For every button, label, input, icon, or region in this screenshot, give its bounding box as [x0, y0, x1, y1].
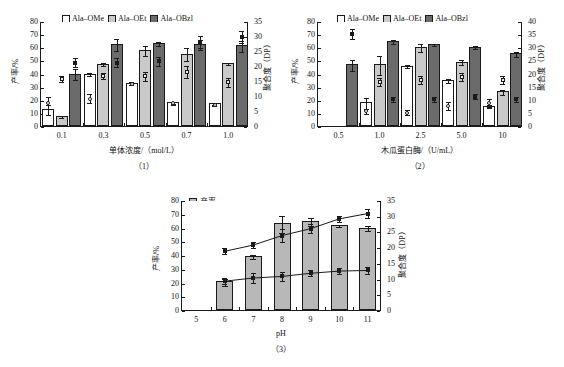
y-tick-label-left: 80: [21, 18, 38, 26]
error-bar-cap: [514, 57, 519, 58]
y-tick-label-left: 0: [298, 123, 315, 131]
y-tick-label-left: 70: [21, 31, 38, 39]
y-tick-label-left: 30: [21, 84, 38, 92]
error-bar-cap: [198, 36, 203, 37]
error-bar-cap: [184, 61, 189, 62]
error-bar-cap: [114, 67, 119, 68]
panel1-plot-area: 01020304050607080051015202530350.10.30.5…: [40, 22, 248, 127]
y-tick-right: [518, 48, 521, 49]
y-tick-label-left: 10: [162, 293, 179, 301]
bar-oet: [456, 62, 468, 126]
error-bar-cap: [364, 98, 369, 99]
y-tick-label-left: 20: [298, 97, 315, 105]
error-bar-cap: [350, 29, 355, 30]
y-tick-label-right: 10: [528, 97, 544, 105]
y-tick-right: [518, 127, 521, 128]
error-bar-cap: [156, 46, 161, 47]
error-bar-cap: [143, 72, 148, 73]
error-bar-cap: [377, 56, 382, 57]
error-bar-cap: [251, 273, 256, 274]
error-bar-cap: [500, 90, 505, 91]
y-tick-right: [518, 35, 521, 36]
y-tick-right: [244, 22, 247, 23]
dp-marker-filled-square: [157, 59, 161, 63]
error-bar-cap: [514, 52, 519, 53]
error-bar-cap: [280, 229, 285, 230]
dp-marker-open-circle: [446, 104, 450, 108]
y-tick-label-right: 35: [528, 31, 544, 39]
y-tick-label-left: 40: [21, 71, 38, 79]
error-bar-cap: [280, 281, 285, 282]
y-tick-left: [318, 75, 321, 76]
error-bar-cap: [59, 82, 64, 83]
y-tick-label-right: 0: [254, 123, 270, 131]
bar-obzl: [236, 45, 248, 126]
y-tick-label-left: 30: [162, 266, 179, 274]
error-bar-cap: [226, 63, 231, 64]
bar-obzl: [469, 47, 481, 126]
y-tick-left: [318, 35, 321, 36]
y-tick-left: [182, 311, 185, 312]
error-bar-cap: [432, 46, 437, 47]
bar-error-bar: [145, 46, 146, 57]
x-tick-label: 0.5: [127, 131, 163, 140]
error-bar-cap: [405, 68, 410, 69]
error-bar-cap: [514, 102, 519, 103]
y-tick-label-left: 80: [162, 197, 179, 205]
panel3-ylabel-left: 产率/%: [150, 241, 161, 277]
bar-error-bar: [117, 39, 118, 51]
x-tick-label: 2.5: [403, 131, 439, 140]
y-tick-left: [318, 114, 321, 115]
y-tick-label-left: 10: [298, 110, 315, 118]
dp-marker-open-square: [501, 78, 505, 82]
dp-marker-open-circle: [88, 97, 92, 101]
y-tick-label-right: 25: [254, 48, 270, 56]
bar-obzl: [346, 64, 358, 126]
bar-error-bar: [75, 69, 76, 81]
bar-obzl: [510, 53, 522, 126]
y-tick-label-right: 10: [387, 276, 403, 284]
y-tick-left: [41, 101, 44, 102]
dp-marker-open-square: [185, 70, 189, 74]
dp-line-marker: [337, 269, 341, 273]
error-bar-cap: [418, 52, 423, 53]
panel2-number: （2）: [317, 160, 522, 171]
error-bar-cap: [239, 43, 244, 44]
dp-marker-open-square: [226, 80, 230, 84]
y-tick-label-right: 35: [387, 197, 403, 205]
panel-1: Ala–OMe Ala–OEt Ala–OBzl 产率/% 聚合度（DP） 01…: [0, 0, 282, 180]
y-tick-label-right: 15: [528, 84, 544, 92]
error-bar-cap: [377, 78, 382, 79]
error-bar-cap: [101, 79, 106, 80]
error-bar-cap: [405, 65, 410, 66]
error-bar-cap: [432, 44, 437, 45]
error-bar-cap: [377, 75, 382, 76]
error-bar-cap: [459, 65, 464, 66]
y-tick-label-right: 15: [254, 78, 270, 86]
y-tick-label-left: 20: [162, 280, 179, 288]
error-bar-cap: [226, 87, 231, 88]
error-bar-cap: [222, 284, 227, 285]
y-tick-label-left: 70: [162, 211, 179, 219]
error-bar-cap: [446, 79, 451, 80]
x-tick-label: 0.1: [44, 131, 80, 140]
bar-oet: [415, 47, 427, 126]
y-tick-label-right: 20: [254, 63, 270, 71]
y-tick-label-left: 0: [21, 123, 38, 131]
bar-obzl: [387, 41, 399, 126]
dp-line-marker: [337, 217, 341, 221]
error-bar-cap: [432, 102, 437, 103]
dp-marker-filled-square: [198, 40, 202, 44]
dp-marker-filled-square: [514, 97, 518, 101]
y-tick-label-right: 30: [528, 44, 544, 52]
error-bar-cap: [418, 84, 423, 85]
dp-line-marker: [251, 276, 255, 280]
y-tick-left: [318, 101, 321, 102]
bar-ome: [401, 66, 413, 126]
y-tick-right: [518, 22, 521, 23]
error-bar-cap: [500, 76, 505, 77]
error-bar-cap: [308, 233, 313, 234]
error-bar-cap: [500, 95, 505, 96]
y-tick-left: [41, 88, 44, 89]
error-bar-cap: [143, 81, 148, 82]
